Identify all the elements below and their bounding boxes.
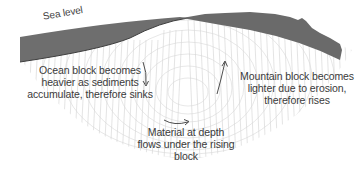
material-at-depth-label: Material at depth flows under the rising…	[136, 126, 236, 162]
mountain-block-label: Mountain block becomes lighter due to er…	[232, 70, 362, 106]
mountain-block	[182, 12, 342, 60]
flow-arrow-icon	[164, 120, 189, 126]
ocean-block-label: Ocean block becomes heavier as sediments…	[26, 64, 154, 100]
